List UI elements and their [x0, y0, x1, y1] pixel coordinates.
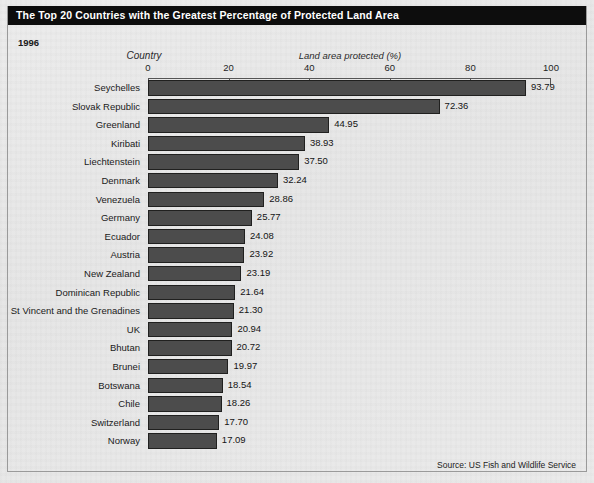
bar-row: Seychelles93.79	[148, 79, 551, 98]
bar-value-label: 38.93	[305, 137, 334, 148]
country-label: Greenland	[0, 119, 140, 130]
bar-row: Brunei19.97	[148, 358, 551, 377]
bar-value-label: 21.30	[234, 304, 263, 315]
x-tick-label: 80	[465, 62, 476, 73]
chart-figure: The Top 20 Countries with the Greatest P…	[0, 0, 594, 483]
bar-value-label: 20.94	[232, 323, 261, 334]
country-label: Norway	[0, 435, 140, 446]
country-label: Austria	[0, 249, 140, 260]
bar	[148, 173, 278, 189]
country-label: Liechtenstein	[0, 156, 140, 167]
bar	[148, 192, 264, 208]
bar-row: Venezuela28.86	[148, 191, 551, 210]
bar-value-label: 72.36	[440, 100, 469, 111]
bar	[148, 378, 223, 394]
bar-row: Greenland44.95	[148, 116, 551, 135]
country-label: UK	[0, 324, 140, 335]
bar-row: Liechtenstein37.50	[148, 153, 551, 172]
country-label: Germany	[0, 212, 140, 223]
bar-value-label: 18.54	[223, 379, 252, 390]
bar-row: New Zealand23.19	[148, 265, 551, 284]
bar-value-label: 44.95	[329, 118, 358, 129]
bar	[148, 229, 245, 245]
x-tick-label: 20	[223, 62, 234, 73]
bar-value-label: 17.70	[219, 416, 248, 427]
x-tick-label: 100	[543, 62, 559, 73]
x-axis-title: Land area protected (%)	[250, 50, 450, 61]
country-label: Switzerland	[0, 417, 140, 428]
bar-row: Botswana18.54	[148, 377, 551, 396]
chart-title-bar: The Top 20 Countries with the Greatest P…	[7, 6, 587, 25]
bar	[148, 396, 222, 412]
country-label: Slovak Republic	[0, 101, 140, 112]
bar-row: Chile18.26	[148, 395, 551, 414]
country-label: Seychelles	[0, 82, 140, 93]
bar-value-label: 23.19	[241, 267, 270, 278]
bar-row: Dominican Republic21.64	[148, 284, 551, 303]
bar	[148, 117, 329, 133]
bar	[148, 266, 241, 282]
bar	[148, 210, 252, 226]
bar	[148, 247, 244, 263]
country-label: Botswana	[0, 380, 140, 391]
source-note: Source: US Fish and Wildlife Service	[437, 460, 576, 470]
country-label: Brunei	[0, 361, 140, 372]
bar-value-label: 37.50	[299, 155, 328, 166]
bar-value-label: 20.72	[232, 341, 261, 352]
bar	[148, 415, 219, 431]
country-label: Chile	[0, 398, 140, 409]
x-tick-label: 0	[145, 62, 150, 73]
bar-series: Seychelles93.79Slovak Republic72.36Green…	[148, 79, 551, 451]
bar	[148, 359, 228, 375]
bar-row: Denmark32.24	[148, 172, 551, 191]
bar-value-label: 21.64	[235, 286, 264, 297]
x-tick-label: 60	[385, 62, 396, 73]
country-label: Bhutan	[0, 342, 140, 353]
country-label: Kiribati	[0, 138, 140, 149]
bar-row: Switzerland17.70	[148, 414, 551, 433]
bar-value-label: 17.09	[217, 434, 246, 445]
bar-row: Ecuador24.08	[148, 228, 551, 247]
x-tick-label: 40	[304, 62, 315, 73]
bar-value-label: 93.79	[526, 81, 555, 92]
bar-value-label: 28.86	[264, 193, 293, 204]
bar	[148, 433, 217, 449]
country-label: New Zealand	[0, 268, 140, 279]
bar-row: Kiribati38.93	[148, 135, 551, 154]
bar	[148, 154, 299, 170]
bar	[148, 285, 235, 301]
bar	[148, 340, 232, 356]
bar-row: Austria23.92	[148, 246, 551, 265]
bar-value-label: 24.08	[245, 230, 274, 241]
bar	[148, 303, 234, 319]
bar-value-label: 19.97	[228, 360, 257, 371]
plot-area: 020406080100 Seychelles93.79Slovak Repub…	[148, 78, 551, 456]
bar-value-label: 23.92	[244, 248, 273, 259]
bar	[148, 99, 440, 115]
bar-row: Germany25.77	[148, 209, 551, 228]
country-label: St Vincent and the Grenadines	[0, 305, 140, 316]
country-label: Ecuador	[0, 231, 140, 242]
bar-row: St Vincent and the Grenadines21.30	[148, 302, 551, 321]
bar	[148, 136, 305, 152]
country-label: Dominican Republic	[0, 287, 140, 298]
bar	[148, 322, 232, 338]
bar-row: Slovak Republic72.36	[148, 98, 551, 117]
bar-value-label: 18.26	[222, 397, 251, 408]
bar-value-label: 32.24	[278, 174, 307, 185]
bar-row: Norway17.09	[148, 432, 551, 451]
country-label: Denmark	[0, 175, 140, 186]
country-label: Venezuela	[0, 194, 140, 205]
bar	[148, 80, 526, 96]
country-axis-title: Country	[108, 50, 180, 61]
bar-row: UK20.94	[148, 321, 551, 340]
bar-row: Bhutan20.72	[148, 339, 551, 358]
bar-value-label: 25.77	[252, 211, 281, 222]
year-label: 1996	[18, 37, 39, 48]
